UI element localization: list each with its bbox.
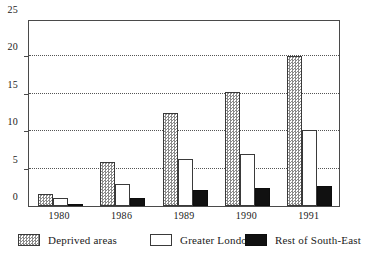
x-tick-label-1980: 1980 [49, 210, 70, 222]
bar-london-1989 [178, 159, 193, 206]
y-tick-label-5: 5 [13, 155, 18, 165]
chart-legend: Deprived areasGreater LondonRest of Sout… [0, 229, 365, 251]
legend-label-southeast: Rest of South-East [275, 234, 361, 246]
x-tick-label-1990: 1990 [236, 210, 257, 222]
x-axis: 19801986198919901991 [28, 210, 340, 226]
y-axis: 0510152025 [0, 20, 24, 207]
bar-deprived-1980 [38, 194, 53, 206]
bar-southeast-1990 [255, 188, 270, 206]
x-tick-label-1989: 1989 [173, 210, 194, 222]
legend-item-southeast[interactable]: Rest of South-East [245, 229, 361, 251]
bar-southeast-1989 [193, 190, 208, 206]
legend-item-deprived[interactable]: Deprived areas [18, 229, 117, 251]
y-tick-label-25: 25 [7, 5, 18, 15]
bar-deprived-1989 [163, 113, 178, 207]
bar-london-1986 [115, 184, 130, 206]
bar-southeast-1991 [317, 186, 332, 206]
legend-item-london[interactable]: Greater London [150, 229, 253, 251]
y-tick-label-20: 20 [7, 42, 18, 52]
legend-label-deprived: Deprived areas [48, 234, 117, 246]
y-tick-label-0: 0 [13, 192, 18, 202]
x-tick-label-1986: 1986 [111, 210, 132, 222]
bar-deprived-1986 [100, 162, 115, 206]
bar-chart: 0510152025 19801986198919901991 Deprived… [0, 0, 365, 263]
y-tick-label-10: 10 [7, 117, 18, 127]
bar-deprived-1990 [225, 92, 240, 206]
y-tick-label-15: 15 [7, 80, 18, 90]
bar-deprived-1991 [287, 56, 302, 206]
legend-swatch-london-icon [150, 234, 172, 246]
legend-swatch-southeast-icon [245, 234, 267, 246]
x-tick-label-1991: 1991 [298, 210, 319, 222]
bar-london-1990 [240, 154, 255, 206]
legend-swatch-deprived-icon [18, 234, 40, 246]
plot-area [28, 20, 340, 207]
bar-southeast-1986 [130, 198, 145, 206]
bar-london-1980 [53, 198, 68, 206]
bar-london-1991 [302, 130, 317, 206]
legend-label-london: Greater London [180, 234, 253, 246]
bar-southeast-1980 [68, 204, 83, 206]
